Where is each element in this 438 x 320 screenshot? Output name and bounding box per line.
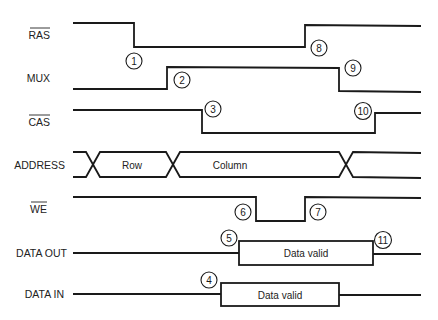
timing-diagram: RAS MUX CAS ADDRESS WE DATA OUT DATA IN … — [0, 0, 438, 320]
signal-label-ras: RAS — [28, 29, 50, 41]
event-marker-4: 4 — [201, 272, 217, 288]
signal-label-cas: CAS — [28, 116, 50, 128]
svg-text:10: 10 — [357, 106, 369, 117]
svg-text:8: 8 — [316, 43, 322, 54]
svg-text:7: 7 — [315, 207, 321, 218]
event-marker-9: 9 — [345, 60, 361, 76]
ras-waveform — [73, 23, 421, 47]
svg-text:4: 4 — [206, 275, 212, 286]
svg-text:11: 11 — [378, 235, 389, 246]
signal-label-we: WE — [30, 203, 47, 215]
event-marker-11: 11 — [375, 232, 392, 249]
svg-text:3: 3 — [210, 104, 216, 115]
data-in-valid-label: Data valid — [258, 290, 302, 301]
event-marker-7: 7 — [310, 204, 326, 220]
signal-label-address: ADDRESS — [14, 159, 65, 171]
signal-label-data-in: DATA IN — [25, 288, 64, 300]
signal-label-mux: MUX — [27, 72, 50, 84]
event-marker-6: 6 — [235, 204, 251, 220]
address-row-label: Row — [122, 160, 143, 171]
signal-label-data-out: DATA OUT — [16, 247, 68, 259]
svg-text:9: 9 — [350, 63, 356, 74]
svg-text:6: 6 — [240, 207, 246, 218]
data-out-valid-label: Data valid — [284, 248, 328, 259]
address-column-label: Column — [213, 160, 247, 171]
data-in-waveform — [73, 283, 421, 306]
event-marker-10: 10 — [355, 103, 372, 120]
event-marker-1: 1 — [126, 53, 142, 69]
mux-waveform — [73, 67, 421, 92]
event-marker-2: 2 — [174, 72, 190, 88]
data-out-waveform — [73, 241, 421, 265]
event-marker-3: 3 — [205, 101, 221, 117]
event-marker-5: 5 — [221, 230, 237, 246]
svg-text:2: 2 — [179, 75, 185, 86]
svg-text:1: 1 — [131, 56, 137, 67]
event-marker-8: 8 — [311, 40, 327, 56]
svg-text:5: 5 — [226, 233, 232, 244]
